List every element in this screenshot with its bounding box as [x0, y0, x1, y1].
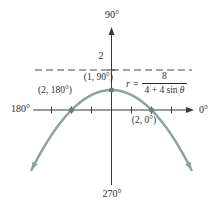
point-dot-right	[149, 107, 154, 112]
equation-equals-sign: =	[133, 78, 139, 89]
polar-graph-figure: 90° 0° 180° 270° 2 (1, 90°) (2, 180°) (2…	[0, 0, 223, 213]
denominator-text: 4 + 4 sin	[145, 85, 178, 95]
point-label-vertex: (1, 90°)	[63, 72, 113, 83]
plot-canvas	[0, 0, 223, 213]
equation-fraction: 8 4 + 4 sinθ	[142, 71, 188, 95]
axis-label-0: 0°	[199, 104, 219, 115]
up-arrowhead	[109, 27, 115, 35]
curve-arrowhead-right	[185, 162, 191, 171]
point-dot-left	[69, 107, 74, 112]
point-label-left: (2, 180°)	[29, 85, 81, 96]
fraction-numerator: 8	[160, 71, 169, 83]
directrix-value-label: 2	[95, 50, 107, 61]
right-arrowhead	[186, 107, 194, 113]
axis-label-270: 270°	[96, 188, 128, 199]
curve-arrowhead-left	[32, 162, 38, 171]
denominator-theta: θ	[180, 85, 185, 95]
point-label-right: (2, 0°)	[124, 115, 164, 126]
axis-label-90: 90°	[98, 9, 126, 20]
equation-variable: r	[126, 78, 130, 89]
equation: r = 8 4 + 4 sinθ	[126, 71, 187, 95]
axis-label-180: 180°	[2, 103, 30, 114]
fraction-denominator: 4 + 4 sinθ	[142, 83, 188, 96]
point-dot-vertex	[109, 87, 114, 92]
